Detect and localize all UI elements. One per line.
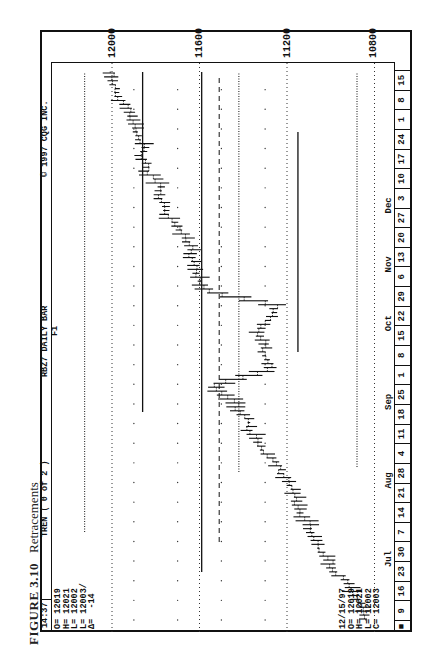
date-tick: 17 — [395, 149, 410, 169]
price-axis: 12000 11600 11200 10800 — [40, 30, 412, 62]
date-tick: 20 — [395, 227, 410, 247]
time-label: 14:37 — [40, 599, 51, 630]
date-tick: 22 — [395, 306, 410, 326]
date-tick: 21 — [395, 483, 410, 503]
price-bars — [51, 62, 395, 632]
date-tick: 9 — [395, 600, 410, 620]
date-tick: 13 — [395, 247, 410, 267]
date-tick: 18 — [395, 404, 410, 424]
plot-area[interactable]: O= 12019H= 12021L= 12002L= 12003/Δ= -14 … — [51, 62, 395, 632]
date-axis: ■916233071421284111825181522296132027310… — [395, 62, 412, 632]
fib-label-f1: F1 — [51, 326, 60, 336]
month-label: Aug — [384, 472, 394, 488]
chart-window: 14:37 TREN ( 0 of 2 ) RBZ7 DAILY BAR © 1… — [40, 30, 412, 632]
date-tick: 29 — [395, 286, 410, 306]
date-tick: 30 — [395, 541, 410, 561]
month-label: Jul — [384, 551, 394, 567]
date-tick: 6 — [395, 266, 410, 286]
date-tick: 28 — [395, 463, 410, 483]
study-label: TREN ( 0 of 2 ) — [40, 460, 51, 537]
date-tick: 4 — [395, 443, 410, 463]
date-tick: 27 — [395, 208, 410, 228]
date-tick: 8 — [395, 90, 410, 110]
copyright-label: © 1997 CQG INC. — [40, 100, 51, 177]
date-tick: 15 — [395, 325, 410, 345]
month-label: Oct — [384, 315, 394, 331]
date-tick: 7 — [395, 522, 410, 542]
price-tick-11200: 11200 — [282, 28, 293, 58]
date-tick: 11 — [395, 424, 410, 444]
ohlc-readout-bottom: 12/15/97O= 12019H= 12021L= 12002C= 12003 — [339, 588, 382, 629]
date-tick: 10 — [395, 168, 410, 188]
date-tick: 16 — [395, 581, 410, 601]
scroll-marker[interactable]: ■ — [395, 620, 410, 632]
date-tick: 23 — [395, 561, 410, 581]
symbol-label: RBZ7 DAILY BAR — [40, 306, 51, 377]
date-tick: 14 — [395, 502, 410, 522]
date-tick: 1 — [395, 109, 410, 129]
date-tick: 25 — [395, 384, 410, 404]
price-tick-12000: 12000 — [107, 28, 118, 58]
price-tick-11600: 11600 — [194, 28, 205, 58]
date-tick: 3 — [395, 188, 410, 208]
price-tick-10800: 10800 — [368, 28, 379, 58]
date-tick: 24 — [395, 129, 410, 149]
month-label: Sep — [384, 394, 394, 410]
date-tick: 8 — [395, 345, 410, 365]
date-tick: 15 — [395, 70, 410, 90]
month-label: Nov — [384, 256, 394, 272]
ohlc-readout-top: O= 12019H= 12021L= 12002L= 12003/Δ= -14 — [54, 583, 97, 629]
month-label: Dec — [384, 197, 394, 213]
figure-number: FIGURE 3.10 — [26, 563, 41, 645]
date-tick: 1 — [395, 365, 410, 385]
figure-title: Retracements — [26, 482, 41, 553]
